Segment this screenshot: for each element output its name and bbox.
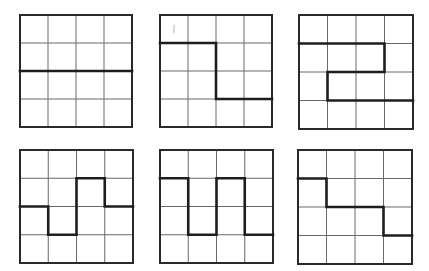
grid-3	[299, 15, 413, 129]
grid-2	[160, 15, 272, 127]
grid-1	[20, 15, 132, 127]
grid-panel-3	[299, 15, 413, 129]
grid-panel-5	[160, 150, 273, 263]
grid-panel-6	[298, 150, 412, 264]
grid-5	[160, 150, 273, 263]
grid-panel-2	[160, 15, 272, 127]
grid-4	[20, 150, 133, 263]
grid-panel-4	[20, 150, 133, 263]
grid-panel-1	[20, 15, 132, 127]
grid-6	[298, 150, 412, 264]
path-line	[20, 178, 133, 235]
